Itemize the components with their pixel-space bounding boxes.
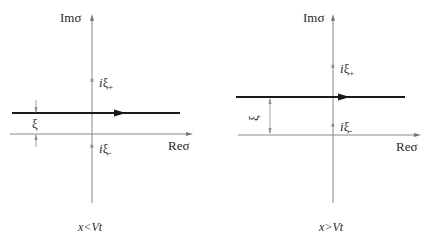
contour-direction-arrow-icon <box>114 110 126 117</box>
pole-marker-icon: × <box>90 142 95 151</box>
pole-xi-minus-label: iξ- <box>340 119 352 136</box>
imaginary-axis-arrow-icon <box>90 14 94 21</box>
real-axis-arrow-icon <box>186 132 193 136</box>
left-panel: Imσ Reσ × iξ+ × iξ- ξ x<Vt <box>10 10 193 234</box>
real-axis-arrow-icon <box>414 133 421 137</box>
imaginary-axis-label: Imσ <box>303 10 324 25</box>
contour-direction-arrow-icon <box>338 94 350 101</box>
pole-marker-icon: × <box>90 76 95 85</box>
pole-xi-plus-label: iξ+ <box>340 61 354 78</box>
real-axis-label: Reσ <box>168 138 189 153</box>
pole-marker-icon: × <box>331 121 336 130</box>
pole-xi-minus-label: iξ- <box>99 141 111 158</box>
pole-xi-plus-label: iξ+ <box>99 75 113 92</box>
imaginary-axis-label: Imσ <box>60 10 81 25</box>
imaginary-axis-arrow-icon <box>331 14 335 21</box>
contour-diagram: Imσ Reσ × iξ+ × iξ- ξ x<Vt Imσ <box>0 0 430 246</box>
pole-marker-icon: × <box>331 62 336 71</box>
real-axis-label: Reσ <box>396 139 417 154</box>
xi-offset-label: ξ <box>246 115 261 121</box>
panel-caption: x<Vt <box>77 220 103 234</box>
panel-caption: x>Vt <box>318 220 344 234</box>
xi-offset-indicator <box>269 98 272 134</box>
right-panel: Imσ Reσ × iξ+ × iξ- ξ x>Vt <box>236 10 421 234</box>
xi-offset-label: ξ <box>32 116 38 131</box>
